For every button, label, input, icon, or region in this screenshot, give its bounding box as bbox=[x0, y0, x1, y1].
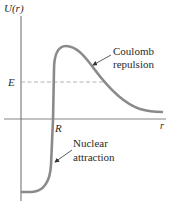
coulomb-label-line1: Coulomb bbox=[113, 45, 154, 57]
nuclear-arrow-icon bbox=[55, 150, 72, 162]
potential-energy-diagram: U(r) r E R Coulomb repulsion Nuclear att… bbox=[0, 0, 170, 206]
nuclear-label-line1: Nuclear bbox=[73, 137, 108, 149]
x-axis-label: r bbox=[160, 120, 164, 131]
coulomb-arrow-icon bbox=[93, 55, 111, 65]
energy-label: E bbox=[7, 76, 15, 88]
coulomb-label-line2: repulsion bbox=[113, 58, 154, 70]
nuclear-label-line2: attraction bbox=[73, 151, 115, 163]
radius-label: R bbox=[54, 122, 62, 134]
y-axis-label: U(r) bbox=[4, 2, 24, 15]
